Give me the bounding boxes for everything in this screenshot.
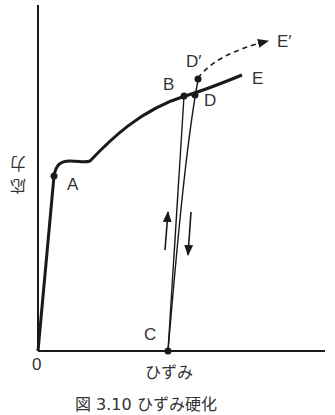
point-d-prime-label: D′	[186, 53, 201, 70]
origin-label: 0	[32, 356, 41, 373]
unloading-line	[168, 96, 184, 351]
reload-arrow-icon	[165, 212, 168, 250]
point-b-label: B	[163, 76, 174, 93]
point-c-marker	[165, 348, 172, 355]
point-e-label: E	[252, 70, 263, 87]
point-e-prime-label: E′	[277, 33, 292, 50]
y-axis-label: 応力	[8, 150, 30, 194]
point-a-marker	[51, 173, 58, 180]
point-c-label: C	[144, 326, 156, 343]
point-b-marker	[181, 93, 188, 100]
elastic-region-line	[38, 176, 54, 351]
point-d-label: D	[204, 92, 216, 109]
point-a-label: A	[67, 176, 78, 193]
point-d-prime-marker	[195, 76, 202, 83]
x-axis-label: ひずみ	[145, 359, 193, 383]
figure-caption: 図 3.10 ひずみ硬化	[75, 391, 217, 415]
unload-arrow-icon	[188, 212, 191, 255]
point-d-marker	[192, 92, 199, 99]
